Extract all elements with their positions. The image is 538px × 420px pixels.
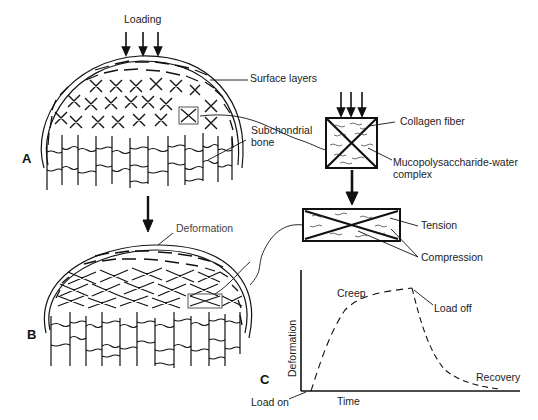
x-axis-label: Time xyxy=(337,396,360,407)
mucopolysaccharide-label-1: Mucopolysaccharide-water xyxy=(393,157,518,168)
deformed-matrix-box xyxy=(250,209,418,285)
load-off-label: Load off xyxy=(434,303,472,314)
collagen-matrix-box xyxy=(326,118,395,168)
subchondral-bone-a xyxy=(47,133,232,190)
transition-arrow-icon xyxy=(346,170,358,205)
loading-label: Loading xyxy=(124,14,161,25)
surface-layers-label: Surface layers xyxy=(250,73,317,84)
subchondral-bone-label-1: Subchondrial xyxy=(251,125,312,136)
y-axis-label: Deformation xyxy=(287,320,298,377)
subchondral-bone-label-2: bone xyxy=(251,137,274,148)
deformation-arrow-icon xyxy=(143,196,153,232)
collagen-fiber-label: Collagen fiber xyxy=(400,116,465,127)
cartilage-dome-b xyxy=(44,233,251,338)
subchondral-bone-b xyxy=(51,312,240,368)
creep-label: Creep xyxy=(337,288,366,299)
loading-arrows-icon xyxy=(123,32,162,55)
compression-arrows-icon xyxy=(338,92,366,116)
mucopolysaccharide-label-2: complex xyxy=(393,169,432,180)
deformation-label: Deformation xyxy=(176,223,233,234)
creep-curve xyxy=(311,288,412,391)
recovery-label: Recovery xyxy=(476,372,520,383)
panel-label-c: C xyxy=(260,373,269,386)
diagram-drawing xyxy=(0,0,538,420)
cartilage-loading-diagram: Loading Surface layers Subchondrial bone… xyxy=(0,0,538,420)
load-on-label: Load on xyxy=(251,397,289,408)
panel-label-a: A xyxy=(22,152,31,165)
compression-label: Compression xyxy=(421,252,483,263)
tension-label: Tension xyxy=(421,220,457,231)
panel-label-b: B xyxy=(27,328,36,341)
